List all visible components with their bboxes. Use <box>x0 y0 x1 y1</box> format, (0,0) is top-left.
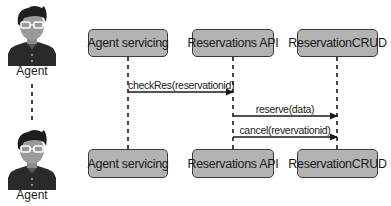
message-label-checkres: checkRes(reservationid) <box>128 79 233 91</box>
message-label-cancel: cancel(revervationid) <box>233 124 337 136</box>
agent-label-top: Agent <box>2 64 62 78</box>
participant-box-reservation-crud-top: ReservationCRUD <box>297 29 378 57</box>
sequence-diagram: Agent Agent Agent servicing Reservations… <box>0 0 391 206</box>
participant-box-agent-servicing-top: Agent servicing <box>88 29 168 57</box>
participant-box-reservations-api-top: Reservations API <box>192 29 274 57</box>
participant-box-reservations-api-bottom: Reservations API <box>192 149 274 178</box>
person-avatar-icon <box>4 4 60 66</box>
participant-box-agent-servicing-bottom: Agent servicing <box>88 149 168 178</box>
message-label-reserve: reserve(data) <box>233 103 337 115</box>
participant-box-reservation-crud-bottom: ReservationCRUD <box>297 149 378 178</box>
person-avatar-icon <box>4 128 60 190</box>
agent-label-bottom: Agent <box>2 188 62 202</box>
